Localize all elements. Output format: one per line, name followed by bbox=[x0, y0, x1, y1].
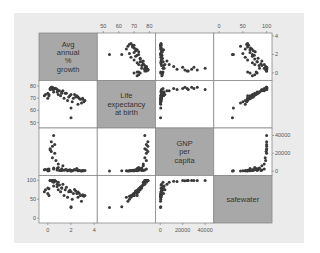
data-point bbox=[245, 169, 248, 172]
data-point bbox=[161, 50, 164, 53]
data-point bbox=[145, 152, 148, 155]
data-point bbox=[53, 152, 56, 155]
data-point bbox=[128, 52, 131, 55]
data-point bbox=[76, 95, 79, 98]
data-point bbox=[68, 168, 71, 171]
data-point bbox=[245, 43, 248, 46]
data-point bbox=[196, 69, 199, 72]
data-point bbox=[263, 63, 266, 66]
data-point bbox=[76, 103, 79, 106]
data-point bbox=[136, 54, 139, 57]
data-point bbox=[126, 200, 129, 203]
data-point bbox=[137, 70, 140, 73]
data-point bbox=[128, 169, 131, 172]
data-point bbox=[253, 54, 256, 57]
data-point bbox=[73, 93, 76, 96]
data-point bbox=[159, 206, 162, 209]
diagonal-label-cell: safewater bbox=[214, 176, 272, 224]
data-point bbox=[172, 87, 175, 90]
data-point bbox=[137, 168, 140, 171]
data-point bbox=[134, 191, 137, 194]
data-point bbox=[159, 43, 162, 46]
data-point bbox=[256, 60, 259, 63]
variable-label: capita bbox=[175, 156, 196, 165]
data-point bbox=[255, 70, 258, 73]
data-point bbox=[71, 100, 74, 103]
data-point bbox=[265, 148, 268, 151]
data-point bbox=[161, 70, 164, 73]
data-point bbox=[146, 179, 149, 182]
data-point bbox=[159, 100, 162, 103]
data-point bbox=[73, 168, 76, 171]
data-point bbox=[72, 192, 75, 195]
data-point bbox=[47, 187, 50, 190]
variable-label: growth bbox=[57, 65, 80, 74]
data-point bbox=[136, 61, 139, 64]
data-point bbox=[54, 159, 57, 162]
data-point bbox=[51, 145, 54, 148]
data-point bbox=[239, 102, 242, 105]
data-point bbox=[160, 95, 163, 98]
data-point bbox=[204, 88, 207, 91]
data-point bbox=[146, 140, 149, 143]
data-point bbox=[145, 148, 148, 151]
data-point bbox=[176, 88, 179, 91]
data-point bbox=[129, 56, 132, 59]
data-point bbox=[56, 167, 59, 170]
data-point bbox=[57, 188, 60, 191]
data-point bbox=[43, 168, 46, 171]
data-point bbox=[160, 54, 163, 57]
data-point bbox=[146, 69, 149, 72]
data-point bbox=[43, 190, 46, 193]
data-point bbox=[125, 196, 128, 199]
data-point bbox=[82, 195, 85, 198]
data-point bbox=[190, 179, 193, 182]
data-point bbox=[159, 116, 162, 119]
axis-tick-label: 0 bbox=[275, 70, 278, 76]
data-point bbox=[159, 200, 162, 203]
axis-tick-label: 4 bbox=[275, 33, 278, 39]
data-point bbox=[241, 52, 244, 55]
data-point bbox=[139, 57, 142, 60]
data-point bbox=[134, 169, 137, 172]
data-point bbox=[68, 189, 71, 192]
axis-tick-label: 80 bbox=[30, 83, 36, 89]
data-point bbox=[80, 200, 83, 203]
data-point bbox=[250, 169, 253, 172]
data-point bbox=[204, 67, 207, 70]
data-point bbox=[128, 195, 131, 198]
axis-tick-label: 70 bbox=[30, 95, 36, 101]
data-point bbox=[52, 88, 55, 91]
data-point bbox=[168, 89, 171, 92]
axis-tick-label: 4 bbox=[93, 227, 96, 233]
axis-tick-label: 100 bbox=[262, 23, 271, 29]
data-point bbox=[128, 43, 131, 46]
data-point bbox=[263, 163, 266, 166]
data-point bbox=[265, 145, 268, 148]
data-point bbox=[263, 89, 266, 92]
data-point bbox=[253, 58, 256, 61]
data-point bbox=[131, 44, 134, 47]
data-point bbox=[51, 156, 54, 159]
data-point bbox=[50, 86, 53, 89]
data-point bbox=[246, 58, 249, 61]
data-point bbox=[168, 63, 171, 66]
diagonal-label-cell: Lifeexpectancyat birth bbox=[97, 81, 155, 129]
data-point bbox=[250, 95, 253, 98]
scatter-cell bbox=[39, 176, 97, 224]
data-point bbox=[257, 57, 260, 60]
data-point bbox=[181, 66, 184, 69]
data-point bbox=[52, 167, 55, 170]
axis-tick-label: 0 bbox=[218, 23, 221, 29]
axis-tick-label: 40000 bbox=[275, 132, 290, 138]
data-point bbox=[61, 164, 64, 167]
data-point bbox=[66, 196, 69, 199]
data-point bbox=[159, 195, 162, 198]
data-point bbox=[190, 68, 193, 71]
data-point bbox=[165, 59, 168, 62]
data-point bbox=[260, 164, 263, 167]
data-point bbox=[57, 163, 60, 166]
data-point bbox=[49, 148, 52, 151]
data-point bbox=[137, 188, 140, 191]
data-point bbox=[244, 56, 247, 59]
